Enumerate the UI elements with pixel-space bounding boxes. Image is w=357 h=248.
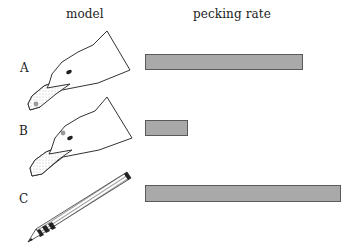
gull-head-b-icon bbox=[30, 97, 132, 176]
pecking-rate-bar-b bbox=[145, 120, 188, 136]
pecking-rate-bar-a bbox=[145, 54, 303, 70]
gull-head-a-icon bbox=[28, 31, 130, 110]
striped-stick-c-icon bbox=[28, 172, 131, 242]
pecking-rate-bar-c bbox=[145, 185, 341, 202]
